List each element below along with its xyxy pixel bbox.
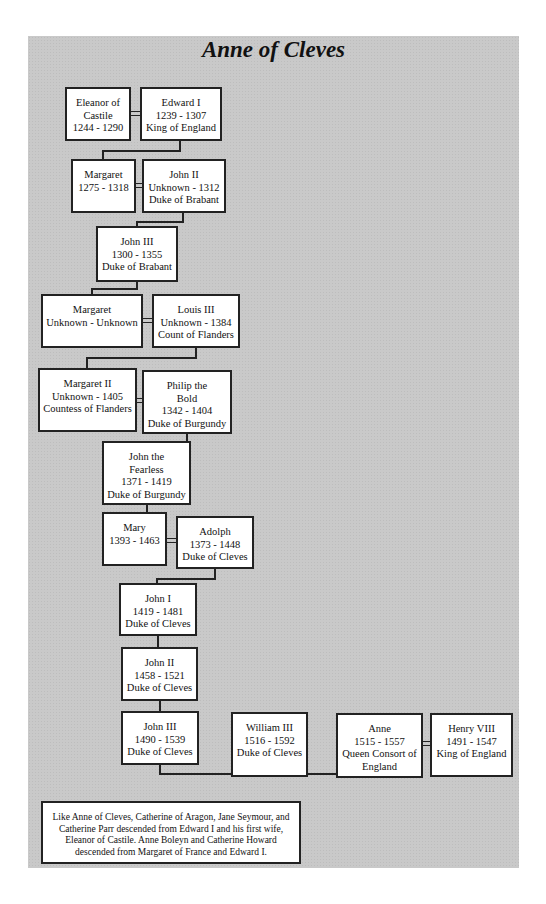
person-title: Duke of Burgundy — [144, 418, 230, 431]
person-title: England — [338, 761, 421, 774]
person-dates: 1490 - 1539 — [123, 734, 197, 747]
person-title: Duke of Brabant — [98, 261, 176, 274]
person-dates: 1275 - 1318 — [73, 182, 134, 195]
person-name: Henry VIII — [432, 723, 511, 736]
person-box-margaret[interactable]: Margaret 1275 - 1318 — [71, 159, 136, 213]
person-name: John II — [144, 169, 224, 182]
connector — [102, 150, 181, 152]
person-name: Margaret II — [40, 378, 135, 391]
person-title: King of England — [432, 748, 511, 761]
person-dates: 1373 - 1448 — [178, 539, 252, 552]
connector — [156, 578, 216, 580]
person-name: John I — [121, 593, 195, 606]
marriage-link — [135, 183, 142, 188]
person-box-edward-i[interactable]: Edward I 1239 - 1307 King of England — [140, 87, 222, 141]
person-name: Castile — [67, 110, 129, 123]
person-box-john-ii-cleves[interactable]: John II 1458 - 1521 Duke of Cleves — [121, 647, 198, 701]
marriage-link — [166, 538, 176, 543]
person-dates: 1491 - 1547 — [432, 736, 511, 749]
person-name: John the — [104, 451, 189, 464]
person-dates: Unknown - 1384 — [154, 317, 238, 330]
person-name: William III — [233, 722, 306, 735]
footnote-box: Like Anne of Cleves, Catherine of Aragon… — [41, 801, 301, 864]
person-title: Duke of Cleves — [178, 551, 252, 564]
person-dates: Unknown - 1405 — [40, 391, 135, 404]
person-box-john-i-cleves[interactable]: John I 1419 - 1481 Duke of Cleves — [119, 583, 197, 636]
connector — [136, 221, 184, 223]
marriage-link — [142, 318, 152, 323]
person-box-john-iii-brabant[interactable]: John III 1300 - 1355 Duke of Brabant — [96, 226, 178, 282]
person-dates: 1419 - 1481 — [121, 606, 195, 619]
person-box-henry-viii[interactable]: Henry VIII 1491 - 1547 King of England — [430, 713, 513, 777]
person-dates: Unknown - 1312 — [144, 182, 224, 195]
person-name: Mary — [104, 522, 165, 535]
person-dates: 1244 - 1290 — [67, 122, 129, 135]
person-dates: 1515 - 1557 — [338, 736, 421, 749]
person-name: Edward I — [142, 97, 220, 110]
person-name: Adolph — [178, 526, 252, 539]
person-box-john-ii-brabant[interactable]: John II Unknown - 1312 Duke of Brabant — [142, 159, 226, 213]
person-name: Louis III — [154, 304, 238, 317]
person-name: Anne — [338, 723, 421, 736]
person-box-eleanor-of-castile[interactable]: Eleanor of Castile 1244 - 1290 — [65, 87, 131, 141]
chart-title: Anne of Cleves — [28, 37, 519, 63]
person-dates: 1371 - 1419 — [104, 476, 189, 489]
person-title: Duke of Cleves — [123, 746, 197, 759]
marriage-link — [422, 741, 430, 746]
person-title: Count of Flanders — [154, 329, 238, 342]
connector — [86, 357, 197, 359]
person-dates: 1239 - 1307 — [142, 110, 220, 123]
person-box-anne-of-cleves[interactable]: Anne 1515 - 1557 Queen Consort of Englan… — [336, 713, 423, 778]
person-title: Duke of Cleves — [123, 682, 196, 695]
person-box-john-the-fearless[interactable]: John the Fearless 1371 - 1419 Duke of Bu… — [102, 441, 191, 505]
person-dates: 1458 - 1521 — [123, 670, 196, 683]
person-dates: 1300 - 1355 — [98, 249, 176, 262]
person-name: Margaret — [43, 304, 141, 317]
person-dates: 1393 - 1463 — [104, 535, 165, 548]
person-name: John II — [123, 657, 196, 670]
person-title: Queen Consort of — [338, 748, 421, 761]
marriage-link — [130, 111, 140, 116]
person-box-adolph[interactable]: Adolph 1373 - 1448 Duke of Cleves — [176, 516, 254, 569]
person-name: Eleanor of — [67, 97, 129, 110]
person-dates: 1342 - 1404 — [144, 405, 230, 418]
person-box-john-iii-cleves[interactable]: John III 1490 - 1539 Duke of Cleves — [121, 711, 199, 765]
person-title: Duke of Cleves — [121, 618, 195, 631]
person-name: Fearless — [104, 464, 189, 477]
person-dates: 1516 - 1592 — [233, 735, 306, 748]
person-title: Duke of Brabant — [144, 194, 224, 207]
person-box-william-iii[interactable]: William III 1516 - 1592 Duke of Cleves — [231, 712, 308, 777]
connector — [91, 288, 138, 290]
person-box-margaret-ii[interactable]: Margaret II Unknown - 1405 Countess of F… — [38, 368, 137, 432]
person-name: Margaret — [73, 169, 134, 182]
person-title: Duke of Cleves — [233, 747, 306, 760]
person-box-philip-the-bold[interactable]: Philip the Bold 1342 - 1404 Duke of Burg… — [142, 370, 232, 434]
person-dates: Unknown - Unknown — [43, 317, 141, 330]
person-name: John III — [98, 236, 176, 249]
person-name: Bold — [144, 393, 230, 406]
person-box-louis-iii[interactable]: Louis III Unknown - 1384 Count of Flande… — [152, 294, 240, 348]
person-name: John III — [123, 721, 197, 734]
person-title: Countess of Flanders — [40, 403, 135, 416]
person-title: King of England — [142, 122, 220, 135]
person-box-mary[interactable]: Mary 1393 - 1463 — [102, 512, 167, 566]
person-box-margaret-unknown[interactable]: Margaret Unknown - Unknown — [41, 294, 143, 348]
person-name: Philip the — [144, 380, 230, 393]
person-title: Duke of Burgundy — [104, 489, 189, 502]
